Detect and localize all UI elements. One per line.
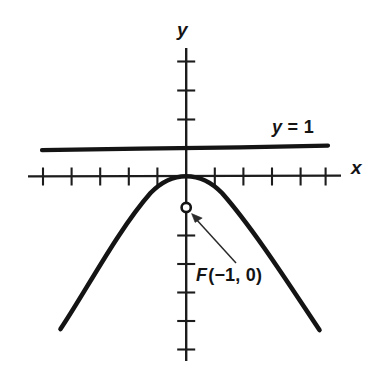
focus-arrow-head xyxy=(192,214,203,223)
focus-point-label: F(−1, 0) xyxy=(196,266,262,284)
directrix-label-rest: = 1 xyxy=(282,117,314,137)
directrix-label-variable: y xyxy=(272,117,282,137)
figure-canvas: y x y = 1 F(−1, 0) xyxy=(0,0,384,379)
y-axis-label: y xyxy=(177,20,188,39)
focus-callout-arrow xyxy=(192,214,236,263)
focus-open-circle-marker xyxy=(182,203,191,212)
graph-svg xyxy=(0,0,384,379)
parabola-curve xyxy=(61,176,320,330)
x-axis-label: x xyxy=(351,158,362,177)
focus-label-variable: F xyxy=(196,265,208,285)
focus-leader-line xyxy=(196,219,237,264)
directrix-line-y-equals-1 xyxy=(42,146,328,151)
focus-label-coordinates: (−1, 0) xyxy=(208,265,262,285)
directrix-label: y = 1 xyxy=(272,118,314,136)
